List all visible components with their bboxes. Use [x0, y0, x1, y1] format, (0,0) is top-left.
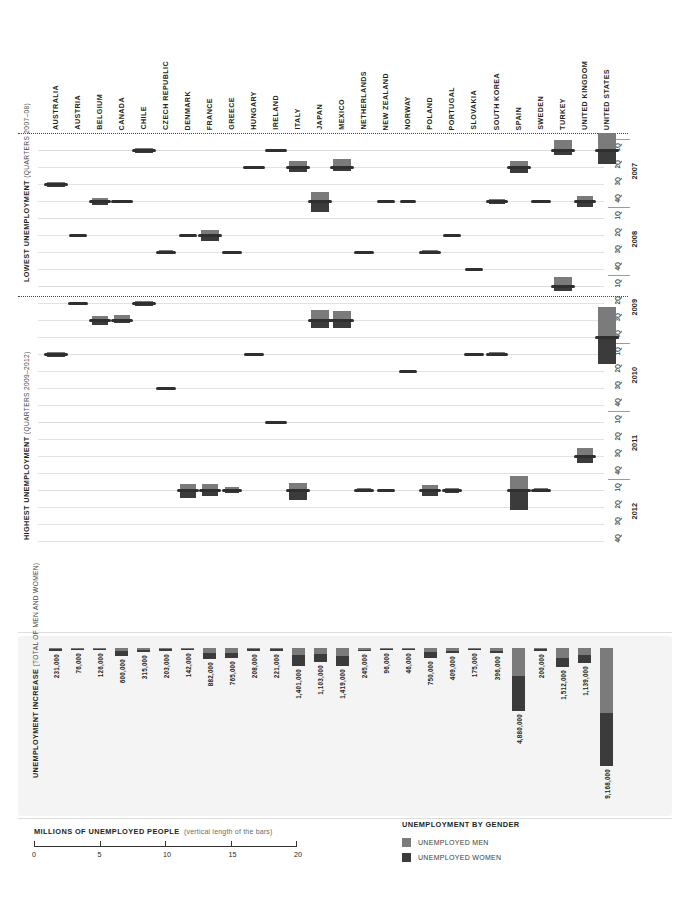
scale-title: MILLIONS OF UNEMPLOYED PEOPLE (vertical … [34, 820, 273, 838]
increase-men-segment [556, 648, 569, 658]
side-title-highest-sub: (QUARTERS 2009–2012) [23, 351, 30, 434]
country-label-ireland: IRELAND [272, 95, 280, 130]
marker-centerline [507, 489, 531, 492]
increase-bar-norway [402, 648, 415, 650]
increase-value-japan: 1,103,000 [317, 665, 324, 695]
increase-women-segment [490, 651, 503, 654]
increase-value-mexico: 1,419,000 [339, 669, 346, 699]
increase-bar-south-korea [490, 648, 503, 653]
scale-title-text: MILLIONS OF UNEMPLOYED PEOPLE [34, 827, 179, 836]
increase-men-segment [292, 648, 305, 655]
gridline-2011-4Q [38, 473, 604, 474]
increase-women-segment [270, 649, 283, 650]
increase-bar-netherlands [358, 648, 371, 651]
marker-centerline [243, 166, 265, 169]
increase-bar-spain [512, 648, 525, 711]
marker-centerline [419, 251, 441, 254]
country-label-hungary: HUNGARY [250, 91, 258, 130]
marker-centerline [177, 489, 199, 492]
unemployment-increase-panel: UNEMPLOYMENT INCREASE (TOTAL OF MEN AND … [18, 636, 672, 816]
marker-centerline [286, 489, 310, 492]
country-label-slovakia: SLOVAKIA [470, 90, 478, 130]
scale-tick-15 [231, 841, 232, 847]
legend-swatch-men [402, 838, 411, 847]
increase-value-hungary: 208,000 [251, 654, 258, 678]
increase-bar-ireland [270, 648, 283, 651]
marker-centerline [132, 149, 156, 152]
quarter-label-2009-1Q: 1Q [614, 279, 621, 288]
increase-value-united-states: 9,168,000 [604, 769, 611, 799]
scale-tick-0 [34, 841, 35, 847]
scale-number-15: 15 [229, 850, 237, 859]
country-label-mexico: MEXICO [338, 99, 346, 130]
marker-centerline [443, 234, 461, 237]
legend-title: UNEMPLOYMENT BY GENDER [402, 820, 519, 829]
range-marker-highest-italy [289, 483, 307, 500]
gridline-2008-1Q [38, 218, 604, 219]
quarter-label-2007-4Q: 4Q [614, 194, 621, 203]
increase-bar-mexico [336, 648, 349, 666]
gridline-2007-3Q [38, 184, 604, 185]
increase-value-france: 882,000 [207, 662, 214, 686]
country-label-czech-republic: CZECH REPUBLIC [162, 61, 170, 130]
country-label-united-kingdom: UNITED KINGDOM [581, 61, 589, 130]
increase-value-belgium: 126,000 [97, 653, 104, 677]
marker-centerline [595, 336, 619, 339]
increase-bar-austria [71, 648, 84, 650]
increase-value-chile: 315,000 [141, 655, 148, 679]
side-title-highest-text: HIGHEST UNEMPLOYMENT [22, 437, 31, 540]
increase-bar-new-zealand [380, 648, 393, 650]
marker-centerline [442, 489, 462, 492]
panel-divider [18, 632, 672, 633]
gridline-2012-3Q [38, 524, 604, 525]
increase-men-segment [336, 648, 349, 656]
increase-women-segment [358, 650, 371, 652]
timeline-chart: LOWEST UNEMPLOYMENT (QUARTERS 2007–08) H… [0, 130, 690, 628]
quarter-label-2011-1Q: 1Q [614, 415, 621, 424]
year-separator-2009 [608, 275, 630, 276]
scale-tick-5 [100, 841, 101, 847]
marker-centerline [156, 387, 176, 390]
scale-number-0: 0 [32, 850, 36, 859]
gridline-2010-1Q [38, 354, 604, 355]
country-label-spain: SPAIN [515, 107, 523, 130]
increase-women-segment [181, 649, 194, 650]
marker-centerline [574, 455, 596, 458]
country-label-turkey: TURKEY [559, 98, 567, 130]
year-label-2007: 2007 [630, 163, 639, 179]
marker-centerline [286, 166, 310, 169]
country-label-netherlands: NETHERLANDS [360, 71, 368, 130]
gridline-2009-1Q [38, 286, 604, 287]
year-label-2008: 2008 [630, 231, 639, 247]
increase-women-segment [468, 649, 481, 650]
marker-centerline [179, 234, 197, 237]
increase-women-segment [159, 649, 172, 650]
increase-bar-france [203, 648, 216, 659]
gridline-2011-1Q [38, 422, 604, 423]
quarter-label-2012-1Q: 1Q [614, 483, 621, 492]
gridline-2010-3Q [38, 388, 604, 389]
gridline-2007-1Q [38, 150, 604, 151]
range-marker-lowest-mexico [333, 159, 351, 171]
increase-bar-united-kingdom [578, 648, 591, 663]
section-divider-top [18, 133, 628, 134]
gridline-2009-4Q [38, 337, 604, 338]
increase-value-poland: 750,000 [427, 661, 434, 685]
marker-centerline [308, 319, 332, 322]
increase-value-sweden: 200,000 [538, 654, 545, 678]
gridline-2010-2Q [38, 371, 604, 372]
increase-women-segment [71, 649, 84, 650]
increase-women-segment [247, 649, 260, 650]
marker-men-segment [598, 133, 616, 150]
increase-bar-italy [292, 648, 305, 666]
marker-centerline [464, 353, 484, 356]
side-title-lowest-sub: (QUARTERS 2007–08) [23, 103, 30, 178]
increase-women-segment [380, 649, 393, 650]
year-label-2010: 2010 [630, 367, 639, 383]
marker-centerline [551, 149, 575, 152]
marker-centerline [132, 302, 156, 305]
country-header-row: AUSTRALIAAUSTRIABELGIUMCANADACHILECZECH … [0, 48, 690, 130]
gridline-2008-4Q [38, 269, 604, 270]
country-label-norway: NORWAY [404, 96, 412, 130]
scale-number-10: 10 [163, 850, 171, 859]
